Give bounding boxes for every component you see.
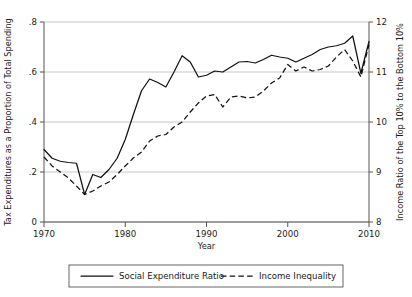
legend-label-income-inequality: Income Inequality xyxy=(259,271,336,281)
y-tick-label-right: 10 xyxy=(376,117,387,127)
y-tick-label-left: 0 xyxy=(32,217,37,227)
x-tick-label: 1970 xyxy=(33,229,55,239)
series-line-social-expenditure-ratio xyxy=(44,36,369,195)
x-axis-title: Year xyxy=(197,241,216,251)
y-tick-label-right: 11 xyxy=(376,67,387,77)
y-tick-label-right: 8 xyxy=(376,217,381,227)
y-tick-label-left: .2 xyxy=(29,167,37,177)
y-tick-label-right: 12 xyxy=(376,17,387,27)
x-tick-label: 1980 xyxy=(114,229,136,239)
y-axis-left-title: Tax Expenditures as a Proportion of Tota… xyxy=(3,18,13,227)
gridlines-group xyxy=(44,22,369,222)
y-axis-right-title: Income Ratio of the Top 10% to the Botto… xyxy=(395,23,405,221)
y-tick-label-left: .6 xyxy=(29,67,37,77)
legend-label-social-expenditure-ratio: Social Expenditure Ratio xyxy=(119,271,224,281)
chart-figure: 0.2.4.6.88910111219701980199020002010 Ta… xyxy=(0,0,412,297)
tick-labels-group: 0.2.4.6.88910111219701980199020002010 xyxy=(29,17,387,239)
chart-legend: Social Expenditure RatioIncome Inequalit… xyxy=(69,265,343,287)
y-tick-label-right: 9 xyxy=(376,167,381,177)
y-tick-label-left: .8 xyxy=(29,17,37,27)
tick-marks-group xyxy=(40,22,373,227)
x-tick-label: 2000 xyxy=(277,229,299,239)
y-tick-label-left: .4 xyxy=(29,117,37,127)
x-tick-label: 2010 xyxy=(358,229,380,239)
data-series-group xyxy=(44,36,369,195)
axis-titles-group: Tax Expenditures as a Proportion of Tota… xyxy=(3,18,405,251)
x-tick-label: 1990 xyxy=(196,229,218,239)
chart-canvas: 0.2.4.6.88910111219701980199020002010 Ta… xyxy=(0,0,412,297)
